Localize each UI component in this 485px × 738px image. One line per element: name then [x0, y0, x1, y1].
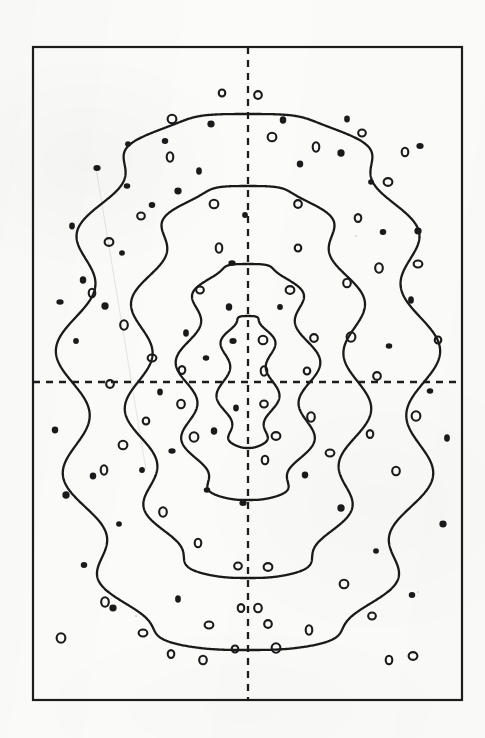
scan-artifact-layer [96, 168, 419, 617]
marker-hollow-ring [386, 656, 393, 665]
marker-hollow-ring [168, 115, 177, 124]
marker-filled-dot [277, 304, 283, 310]
marker-hollow-ring [375, 263, 383, 272]
marker-hollow-ring [264, 563, 273, 571]
marker-hollow-ring [264, 620, 272, 628]
marker-hollow-ring [177, 400, 185, 409]
contour-plot-canvas [0, 0, 485, 738]
marker-filled-dot [207, 121, 214, 128]
marker-hollow-ring [340, 580, 349, 589]
marker-hollow-ring [57, 633, 66, 642]
marker-filled-dot [62, 491, 69, 498]
marker-filled-dot [337, 149, 344, 156]
marker-hollow-ring [310, 334, 318, 342]
marker-filled-dot [101, 302, 108, 309]
marker-filled-dot [386, 343, 393, 348]
contour-inner-left [176, 264, 248, 500]
axes-layer [33, 47, 462, 700]
marker-hollow-ring [409, 652, 418, 660]
marker-hollow-ring [159, 507, 167, 516]
marker-filled-dot [211, 427, 218, 434]
marker-filled-dot [73, 338, 79, 344]
marker-hollow-ring [205, 622, 214, 629]
marker-hollow-ring [368, 613, 376, 620]
marker-hollow-ring [402, 148, 409, 157]
marker-hollow-ring [101, 597, 109, 606]
marker-filled-dot [302, 472, 309, 479]
marker-filled-dot [119, 250, 125, 255]
marker-filled-dot [337, 504, 344, 511]
marker-filled-dot [280, 116, 287, 123]
marker-hollow-ring [313, 142, 320, 151]
marker-filled-dot [90, 473, 97, 480]
marker-hollow-ring [101, 465, 108, 474]
marker-filled-dot [226, 303, 233, 310]
marker-hollow-ring [259, 336, 268, 345]
marker-hollow-ring [295, 245, 302, 252]
marker-filled-dot [196, 167, 202, 174]
marker-filled-dot [203, 355, 210, 360]
marker-hollow-ring [190, 432, 199, 441]
marker-hollow-ring [412, 411, 421, 420]
marker-hollow-ring [392, 467, 400, 476]
marker-hollow-ring [326, 450, 335, 457]
marker-hollow-ring [307, 412, 315, 421]
marker-hollow-ring [195, 539, 202, 548]
marker-filled-dot [380, 229, 387, 235]
marker-filled-dot [344, 116, 350, 123]
marker-hollow-ring [254, 604, 262, 613]
marker-filled-dot [168, 448, 175, 453]
marker-hollow-ring [119, 441, 128, 450]
marker-filled-dot [183, 329, 189, 336]
marker-hollow-ring [286, 286, 295, 294]
marker-hollow-ring [294, 200, 302, 208]
marker-hollow-ring [216, 243, 223, 252]
marker-filled-dot [416, 143, 423, 149]
marker-hollow-ring [373, 372, 381, 380]
marker-filled-dot [139, 467, 145, 473]
marker-hollow-ring [238, 604, 245, 612]
marker-filled-dot [116, 521, 122, 526]
marker-hollow-ring [355, 214, 362, 222]
marker-hollow-ring [234, 563, 242, 570]
marker-hollow-ring [143, 418, 150, 425]
marker-hollow-ring [268, 133, 277, 142]
marker-hollow-ring [139, 630, 148, 637]
marker-filled-dot [229, 338, 236, 344]
marker-filled-dot [409, 592, 416, 598]
marker-hollow-ring [367, 430, 374, 438]
marker-filled-dot [81, 562, 88, 568]
marker-filled-dot [162, 138, 169, 144]
marker-filled-dot [149, 202, 156, 208]
marker-hollow-ring [254, 91, 262, 99]
marker-filled-dot [93, 165, 100, 171]
marker-hollow-ring [168, 650, 175, 658]
marker-filled-dot [124, 183, 131, 188]
marker-filled-dot [439, 521, 446, 528]
marker-hollow-ring [199, 656, 207, 665]
marker-filled-dot [52, 427, 59, 434]
marker-filled-dot [69, 223, 75, 230]
marker-hollow-ring [210, 200, 219, 209]
marker-hollow-ring [262, 456, 269, 465]
marker-filled-dot [157, 389, 163, 396]
marker-hollow-ring [358, 130, 366, 137]
marker-filled-dot [56, 299, 63, 304]
marker-hollow-ring [384, 178, 393, 186]
marker-filled-dot [373, 548, 379, 553]
marker-hollow-ring [272, 432, 281, 440]
marker-filled-dot [444, 434, 450, 441]
marker-filled-dot [109, 605, 116, 612]
marker-hollow-ring [414, 261, 423, 268]
marker-filled-dot [297, 161, 304, 168]
marker-filled-dot [233, 405, 239, 412]
marker-hollow-ring [137, 213, 145, 220]
marker-filled-dot [175, 595, 181, 602]
marker-hollow-ring [304, 368, 311, 375]
figure-root [0, 0, 485, 738]
marker-hollow-ring [272, 643, 281, 652]
marker-filled-dot [427, 388, 434, 393]
marker-hollow-ring [219, 90, 226, 97]
marker-hollow-ring [306, 625, 313, 634]
marker-filled-dot [174, 188, 181, 195]
